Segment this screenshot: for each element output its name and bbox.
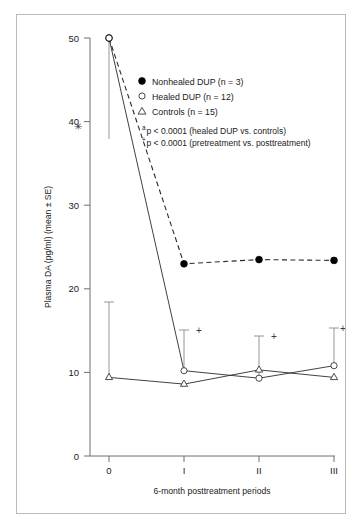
series-line-controls	[109, 370, 334, 384]
point-healed-0	[106, 35, 112, 41]
legend: Nonhealed DUP (n = 3) Healed DUP (n = 12…	[138, 77, 243, 117]
error-bars-controls	[104, 302, 114, 377]
x-axis-title: 6-month posttreatment periods	[153, 486, 270, 496]
point-controls-III	[330, 373, 337, 379]
plus-annotation-period-I: +	[196, 325, 202, 336]
x-tick-label-0: 0	[106, 465, 111, 476]
point-healed-III	[331, 363, 337, 369]
markers-nonhealed-dup	[106, 35, 338, 268]
x-tick-label-III: III	[330, 465, 338, 476]
point-healed-II	[256, 375, 262, 381]
legend-marker-open-circle-icon	[139, 93, 145, 99]
series-line-healed-dup	[109, 38, 334, 378]
plus-annotation-period-II: +	[271, 331, 277, 342]
x-tick-label-I: I	[183, 465, 186, 476]
y-tick-label-50: 50	[68, 33, 79, 44]
plus-annotation-period-III: +	[340, 323, 345, 334]
point-nonhealed-II	[256, 256, 263, 263]
y-axis-title: Plasma DA (pg/ml) (mean ± SE)	[43, 186, 53, 308]
y-tick-label-0: 0	[74, 451, 79, 462]
y-tick-label-20: 20	[68, 283, 79, 294]
y-tick-label-10: 10	[68, 367, 79, 378]
point-controls-II	[255, 366, 262, 372]
legend-label-healed-dup: Healed DUP (n = 12)	[152, 92, 234, 102]
point-nonhealed-III	[331, 257, 338, 264]
legend-label-nonhealed-dup: Nonhealed DUP (n = 3)	[152, 77, 244, 87]
point-nonhealed-I	[181, 260, 188, 267]
markers-controls	[105, 366, 337, 386]
x-tick-label-II: II	[256, 465, 261, 476]
figure-frame: 50 40 30 20 10 0 Plasma DA (pg/ml) (mean…	[16, 14, 346, 514]
footnote-superscript-a: a	[142, 124, 146, 131]
legend-marker-filled-circle-icon	[139, 78, 146, 85]
y-axis: 50 40 30 20 10 0 Plasma DA (pg/ml) (mean…	[43, 33, 90, 462]
x-axis: 0 I II III 6-month posttreatment periods	[90, 456, 338, 496]
error-bars-healed-dup	[109, 38, 339, 380]
y-tick-label-30: 30	[68, 200, 79, 211]
footnote-text-a: p < 0.0001 (healed DUP vs. controls)	[147, 126, 287, 136]
legend-marker-open-triangle-icon	[138, 107, 146, 114]
legend-label-controls: Controls (n = 15)	[152, 107, 218, 117]
footnote-superscript-plus: +	[142, 136, 146, 143]
asterisk-annotation: ✳	[74, 121, 82, 132]
footnotes: a p < 0.0001 (healed DUP vs. controls) +…	[142, 124, 311, 148]
chart-canvas: 50 40 30 20 10 0 Plasma DA (pg/ml) (mean…	[17, 15, 345, 513]
footnote-text-plus: p < 0.0001 (pretreatment vs. posttreatme…	[147, 138, 311, 148]
point-healed-I	[181, 368, 187, 374]
markers-healed-dup	[106, 35, 337, 381]
series-line-nonhealed-dup	[109, 38, 334, 264]
point-controls-0	[105, 373, 112, 379]
